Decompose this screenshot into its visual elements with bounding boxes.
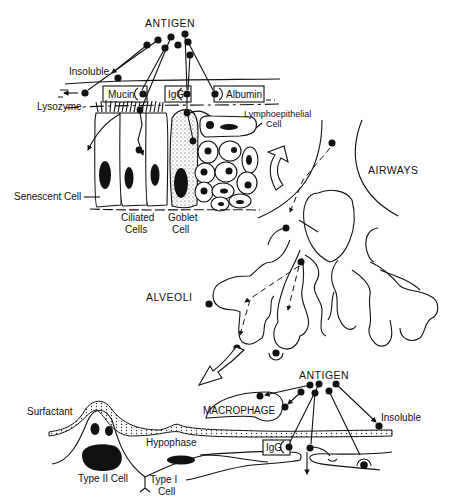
igg-label-top: IgG	[168, 89, 184, 100]
antigen-particles-bottom	[298, 381, 340, 397]
igg-label-bottom: IgG	[266, 442, 282, 453]
alveoli-label: ALVEOLI	[146, 291, 193, 303]
airway-epithelium-panel: ANTIGEN Mucin IgG	[14, 17, 311, 235]
antigen-pathway-diagram: ANTIGEN Mucin IgG	[0, 0, 471, 504]
insoluble-label-bottom: Insoluble	[381, 412, 421, 423]
antigen-label-bottom: ANTIGEN	[299, 369, 349, 381]
type2-cell-label: Type II Cell	[78, 473, 128, 484]
igg-box-bottom: IgG	[263, 440, 293, 455]
goblet-cell-label-1: Goblet	[168, 212, 198, 223]
lymphoepithelial-label-1: Lymphoepithelial	[244, 109, 311, 119]
zoom-arrow-up	[268, 146, 288, 190]
mucin-box: Mucin	[103, 86, 147, 102]
macrophage-label: MACROPHAGE	[203, 405, 276, 416]
albumin-label: Albumin	[226, 89, 262, 100]
hypophase-label: Hypophase	[146, 437, 197, 448]
type1-cell-label-2: Cell	[158, 486, 175, 497]
surfactant-label: Surfactant	[27, 406, 73, 417]
senescent-cell	[95, 113, 122, 207]
antigen-label-top: ANTIGEN	[145, 17, 195, 29]
insoluble-label-top: Insoluble	[69, 66, 109, 77]
type2-cell-nucleus	[82, 444, 122, 471]
lymphoid-cell-cluster	[195, 141, 258, 211]
columnar-cells	[95, 113, 168, 207]
lymphoepithelial-label-2: Cell	[266, 119, 282, 129]
goblet-cell-label-2: Cell	[172, 224, 189, 235]
airways-label: AIRWAYS	[368, 164, 419, 176]
alveolar-wall-panel: ANTIGEN MACROPHAGE Insoluble Surfactant …	[27, 369, 421, 497]
ciliated-cells-label-2: Cells	[125, 224, 147, 235]
type1-cell-label-1: Type I	[150, 474, 177, 485]
ciliated-cells-label-1: Ciliated	[121, 212, 154, 223]
ciliated-cell-1	[120, 113, 148, 206]
senescent-cell-label: Senescent Cell	[14, 191, 81, 202]
alveolar-sacs	[213, 240, 438, 349]
zoom-arrow-down	[199, 347, 244, 385]
lysozyme-label: Lysozyme	[37, 101, 82, 112]
albumin-box: Albumin	[211, 86, 264, 102]
mucin-label: Mucin	[108, 89, 135, 100]
ciliated-cell-2	[146, 113, 168, 206]
